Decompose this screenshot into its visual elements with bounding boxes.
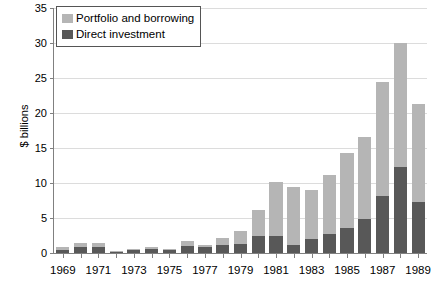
x-tick-label: 1979	[228, 264, 254, 276]
bar-group	[376, 82, 389, 253]
bar-group	[74, 243, 87, 254]
y-tick-label: 35	[35, 2, 47, 14]
legend-label-direct: Direct investment	[76, 28, 165, 40]
bar-segment-direct-investment	[340, 228, 353, 253]
x-tick-mark	[187, 253, 188, 258]
bar-segment-direct-investment	[181, 246, 194, 253]
bar-group	[216, 238, 229, 253]
bar-segment-direct-investment	[269, 236, 282, 254]
bar-segment-portfolio-and-borrowing	[358, 137, 371, 220]
y-tick-label: 25	[35, 72, 47, 84]
x-tick-mark	[98, 253, 99, 258]
x-tick-mark	[383, 253, 384, 258]
bar-segment-direct-investment	[234, 244, 247, 253]
bar-segment-direct-investment	[376, 196, 389, 253]
bar-segment-portfolio-and-borrowing	[376, 82, 389, 196]
bar-group	[181, 241, 194, 253]
x-tick-mark	[276, 253, 277, 258]
x-tick-mark	[400, 253, 401, 258]
x-tick-mark	[329, 253, 330, 258]
legend-swatch-portfolio	[62, 14, 73, 23]
x-tick-mark	[241, 253, 242, 258]
bar-segment-portfolio-and-borrowing	[127, 249, 140, 250]
x-tick-mark	[258, 253, 259, 258]
y-tick-label: 0	[41, 247, 47, 259]
y-axis-title: $ billions	[18, 66, 30, 186]
bar-segment-portfolio-and-borrowing	[394, 43, 407, 167]
x-tick-mark	[223, 253, 224, 258]
y-tick-label: 30	[35, 37, 47, 49]
bar-segment-portfolio-and-borrowing	[163, 249, 176, 250]
legend-label-portfolio: Portfolio and borrowing	[76, 12, 194, 24]
bar-group	[198, 245, 211, 253]
bar-segment-portfolio-and-borrowing	[269, 182, 282, 235]
legend-swatch-direct	[62, 30, 73, 39]
legend-item-direct: Direct investment	[62, 26, 194, 42]
bar-segment-direct-investment	[216, 245, 229, 253]
x-tick-mark	[312, 253, 313, 258]
x-tick-label: 1971	[86, 264, 112, 276]
bar-segment-portfolio-and-borrowing	[145, 247, 158, 249]
bar-segment-portfolio-and-borrowing	[340, 153, 353, 228]
bar-segment-portfolio-and-borrowing	[74, 243, 87, 248]
bar-segment-portfolio-and-borrowing	[56, 247, 69, 250]
x-tick-mark	[63, 253, 64, 258]
stacked-bar-chart: $ billions 05101520253035 19691971197319…	[0, 0, 434, 293]
x-tick-mark	[294, 253, 295, 258]
x-tick-label: 1975	[157, 264, 183, 276]
bar-segment-portfolio-and-borrowing	[92, 243, 105, 248]
bar-group	[252, 210, 265, 253]
bar-segment-portfolio-and-borrowing	[412, 104, 425, 202]
y-tick-mark	[50, 253, 54, 254]
x-tick-mark	[116, 253, 117, 258]
bar-segment-portfolio-and-borrowing	[181, 241, 194, 246]
bar-segment-direct-investment	[412, 202, 425, 253]
bar-segment-portfolio-and-borrowing	[110, 251, 123, 252]
x-tick-mark	[205, 253, 206, 258]
bar-group	[269, 182, 282, 253]
x-tick-label: 1987	[370, 264, 396, 276]
x-tick-mark	[365, 253, 366, 258]
bar-segment-portfolio-and-borrowing	[216, 238, 229, 246]
x-tick-label: 1973	[121, 264, 147, 276]
x-tick-mark	[347, 253, 348, 258]
bar-segment-portfolio-and-borrowing	[198, 245, 211, 247]
bar-segment-direct-investment	[287, 245, 300, 253]
bar-group	[340, 153, 353, 253]
bar-segment-portfolio-and-borrowing	[252, 210, 265, 236]
x-tick-label: 1983	[299, 264, 325, 276]
x-tick-label: 1969	[50, 264, 76, 276]
bar-segment-portfolio-and-borrowing	[287, 187, 300, 246]
legend-item-portfolio: Portfolio and borrowing	[62, 10, 194, 26]
y-tick-label: 15	[35, 142, 47, 154]
chart-legend: Portfolio and borrowing Direct investmen…	[56, 6, 201, 47]
bar-segment-portfolio-and-borrowing	[305, 190, 318, 239]
x-tick-label: 1989	[405, 264, 431, 276]
x-tick-mark	[134, 253, 135, 258]
bar-group	[394, 43, 407, 253]
x-tick-mark	[152, 253, 153, 258]
x-tick-label: 1985	[334, 264, 360, 276]
bar-group	[305, 190, 318, 253]
bar-group	[92, 243, 105, 254]
bar-group	[412, 104, 425, 253]
bar-group	[358, 137, 371, 253]
x-tick-mark	[81, 253, 82, 258]
y-tick-label: 10	[35, 177, 47, 189]
bar-segment-portfolio-and-borrowing	[323, 175, 336, 234]
bar-segment-direct-investment	[394, 167, 407, 253]
x-tick-mark	[169, 253, 170, 258]
x-tick-mark	[418, 253, 419, 258]
bar-group	[287, 187, 300, 254]
bar-segment-direct-investment	[252, 236, 265, 254]
bar-segment-direct-investment	[305, 239, 318, 253]
bar-group	[234, 231, 247, 253]
bar-group	[323, 175, 336, 253]
x-tick-label: 1977	[192, 264, 218, 276]
bar-segment-direct-investment	[323, 234, 336, 253]
y-tick-label: 20	[35, 107, 47, 119]
y-tick-label: 5	[41, 212, 47, 224]
bar-segment-portfolio-and-borrowing	[234, 231, 247, 244]
x-tick-label: 1981	[263, 264, 289, 276]
bar-segment-direct-investment	[358, 219, 371, 253]
